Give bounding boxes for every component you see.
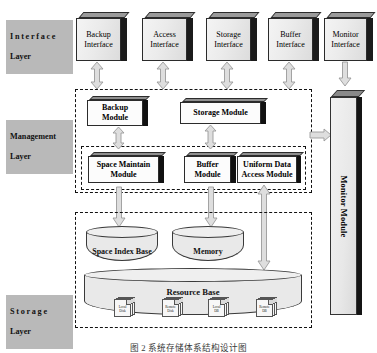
cylinder-lid — [86, 226, 158, 238]
interface-box-access-face: Access Interface — [142, 18, 187, 61]
module-space-maintain-line1: Space Maintain — [97, 160, 151, 170]
interface-box-storage[interactable]: Storage Interface — [206, 12, 258, 61]
interface-box-access-line2: Interface — [150, 40, 178, 49]
layer-label-management-line1: Management — [10, 132, 70, 142]
cube-side-face — [250, 18, 257, 61]
page-fold-icon — [174, 300, 179, 305]
cylinder-memory-label: Memory — [172, 247, 244, 256]
monitor-module-face: Monitor Module — [330, 97, 357, 315]
module-backup[interactable]: Backup Module — [87, 96, 151, 126]
arrow-storage-module-to-buffer-module — [204, 125, 217, 149]
cylinder-memory[interactable]: Memory — [172, 226, 244, 264]
module-backup-line2: Module — [102, 113, 128, 123]
page-fold-icon — [220, 300, 225, 305]
document-icon-local-disk-line2: Disk — [114, 309, 131, 313]
module-storage-line1: Storage Module — [193, 108, 247, 118]
document-icon-remote-db[interactable]: Remote DB — [256, 297, 278, 317]
cylinder-space-index-base[interactable]: Space Index Base — [86, 226, 158, 264]
interface-box-access[interactable]: Access Interface — [142, 12, 194, 61]
cylinder-lid — [84, 268, 302, 282]
interface-box-monitor-face: Monitor Interface — [324, 18, 367, 61]
arrow-storage-interface-to-management — [220, 62, 234, 89]
interface-box-access-line1: Access — [153, 30, 176, 39]
arrow-access-interface-to-management — [156, 62, 170, 89]
interface-box-storage-line1: Storage — [216, 30, 240, 39]
layer-label-storage-line1: Storage — [10, 307, 70, 317]
interface-box-monitor[interactable]: Monitor Interface — [324, 12, 376, 61]
document-icon-local-disk[interactable]: Local Disk — [114, 297, 136, 317]
page-fold-icon — [268, 300, 273, 305]
page-fold-icon — [126, 300, 131, 305]
interface-box-monitor-line1: Monitor — [332, 30, 358, 39]
module-storage-face: Storage Module — [180, 102, 261, 124]
interface-box-buffer-face: Buffer Interface — [268, 18, 313, 61]
module-backup-line1: Backup — [102, 103, 128, 113]
module-space-maintain[interactable]: Space Maintain Module — [88, 152, 168, 183]
interface-box-buffer-line1: Buffer — [280, 30, 301, 39]
cylinder-resource-base-label: Resource Base — [84, 287, 302, 297]
cube-side-face — [366, 18, 373, 61]
interface-box-monitor-line2: Interface — [331, 40, 359, 49]
module-uniform-data-access-face: Uniform Data Access Module — [237, 156, 297, 183]
interface-box-storage-face: Storage Interface — [206, 18, 251, 61]
module-space-maintain-line2: Module — [110, 170, 136, 180]
monitor-module-label: Monitor Module — [339, 175, 348, 237]
module-buffer[interactable]: Buffer Module — [184, 152, 240, 183]
interface-box-backup[interactable]: Backup Interface — [76, 12, 128, 61]
module-buffer-line2: Module — [194, 170, 220, 180]
module-space-maintain-face: Space Maintain Module — [88, 156, 159, 183]
arrow-buffer-interface-to-management — [282, 62, 296, 89]
cube-side-face — [120, 18, 127, 61]
module-uniform-data-access[interactable]: Uniform Data Access Module — [237, 152, 305, 183]
layer-label-interface-line2: Layer — [10, 52, 70, 62]
cylinder-space-index-base-label: Space Index Base — [86, 247, 158, 256]
module-uniform-data-access-line1: Uniform Data — [243, 160, 291, 170]
layer-label-interface: Interface Layer — [6, 20, 73, 74]
arrow-management-to-monitor-module — [310, 128, 332, 142]
document-icon-local-db-line2: DB — [208, 309, 225, 313]
document-icon-remote-disk[interactable]: Remote Disk — [162, 297, 184, 317]
figure-caption: 图 2 系统存储体系结构设计图 — [0, 341, 377, 353]
module-storage[interactable]: Storage Module — [180, 98, 270, 124]
cylinder-lid — [172, 226, 244, 238]
module-uniform-data-access-line2: Access Module — [242, 170, 293, 180]
layer-label-management: Management Layer — [6, 120, 73, 174]
interface-box-backup-line2: Interface — [84, 40, 112, 49]
interface-box-storage-line2: Interface — [214, 40, 242, 49]
layer-label-storage-line2: Layer — [10, 327, 70, 337]
interface-box-backup-face: Backup Interface — [76, 18, 121, 61]
cube-side-face — [312, 18, 319, 61]
cylinder-resource-base[interactable]: Resource Base Local Disk Remote Disk Loc… — [84, 268, 302, 320]
interface-box-backup-line1: Backup — [86, 30, 110, 39]
arrow-backup-module-to-space-maintain — [112, 127, 125, 149]
arrow-monitor-interface-to-monitor-module — [338, 62, 352, 86]
document-icon-remote-db-line2: DB — [256, 309, 273, 313]
arrow-backup-interface-to-management — [90, 62, 104, 89]
interface-box-buffer[interactable]: Buffer Interface — [268, 12, 320, 61]
document-icon-local-db[interactable]: Local DB — [208, 297, 230, 317]
module-buffer-line1: Buffer — [196, 160, 218, 170]
cube-side-face — [186, 18, 193, 61]
layer-label-interface-line1: Interface — [10, 32, 70, 42]
module-buffer-face: Buffer Module — [184, 156, 231, 183]
document-icon-remote-disk-line2: Disk — [162, 309, 179, 313]
layer-label-management-line2: Layer — [10, 152, 70, 162]
module-backup-face: Backup Module — [87, 100, 143, 126]
monitor-module[interactable]: Monitor Module — [330, 90, 370, 315]
interface-box-buffer-line2: Interface — [276, 40, 304, 49]
monitor-module-top-face — [331, 90, 365, 97]
